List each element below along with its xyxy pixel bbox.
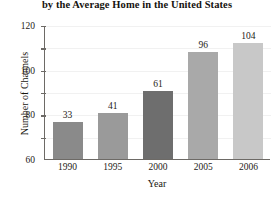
- bar-value-label: 33: [63, 110, 73, 120]
- plot-area: 2040608010012033199041199561200096200510…: [44, 26, 270, 160]
- x-axis-tick-label: 1995: [103, 162, 122, 172]
- bar: 612000: [143, 91, 173, 159]
- y-axis-tick-label: 60: [26, 155, 36, 165]
- x-axis-title: Year: [44, 178, 270, 189]
- bar-value-label: 41: [108, 101, 118, 111]
- y-axis-tick: 120: [41, 26, 46, 27]
- x-axis-tick-label: 2005: [194, 162, 213, 172]
- y-axis-tick: 80: [41, 71, 46, 72]
- y-axis-title: Number of Channels: [19, 24, 30, 164]
- bar-value-label: 61: [153, 79, 163, 89]
- bar: 962005: [188, 52, 218, 159]
- chart-title: by the Average Home in the United States: [0, 0, 274, 10]
- x-axis-tick-label: 2006: [239, 162, 258, 172]
- bar-value-label: 96: [198, 40, 208, 50]
- x-axis-tick-label: 1990: [58, 162, 77, 172]
- y-axis-tick-label: 100: [21, 66, 35, 76]
- gridline: [45, 26, 271, 27]
- y-axis-tick: 100: [41, 48, 46, 49]
- y-axis-tick-label: 120: [21, 21, 35, 31]
- y-axis-tick: 20: [41, 138, 46, 139]
- bar: 331990: [53, 122, 83, 159]
- bar-chart-figure: by the Average Home in the United States…: [0, 0, 274, 198]
- x-axis-tick-label: 2000: [149, 162, 168, 172]
- bar: 1042006: [233, 43, 263, 159]
- y-axis-tick: 40: [41, 115, 46, 116]
- y-axis-tick-label: 80: [26, 110, 36, 120]
- bar-value-label: 104: [241, 31, 255, 41]
- bar: 411995: [98, 113, 128, 159]
- y-axis-tick: 60: [41, 93, 46, 94]
